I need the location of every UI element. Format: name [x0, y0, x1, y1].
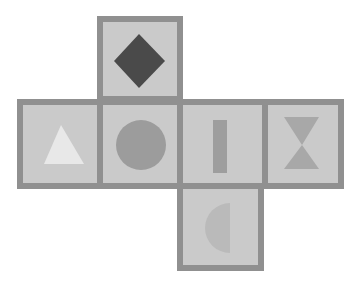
face-left — [17, 99, 103, 189]
face-right — [262, 99, 344, 189]
diamond-icon — [97, 16, 183, 102]
cube-net-diagram — [0, 0, 360, 287]
hourglass-icon — [262, 99, 344, 189]
circle-icon — [97, 99, 183, 189]
face-center-right — [177, 99, 268, 189]
vertical-bar-icon — [177, 99, 268, 189]
face-bottom — [177, 183, 264, 271]
face-center — [97, 99, 183, 189]
face-top — [97, 16, 183, 102]
triangle-icon — [17, 99, 103, 189]
half-circle-icon — [177, 183, 264, 271]
